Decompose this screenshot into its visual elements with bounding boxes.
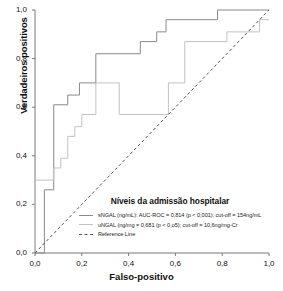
- x-tick-label: 0,2: [69, 259, 95, 268]
- legend-swatch-ungal-icon: [78, 221, 94, 229]
- legend-swatch-reference-line-icon: [78, 230, 94, 238]
- x-tick-label: 0,8: [209, 259, 235, 268]
- legend-label-reference-line: Reference Line: [98, 231, 135, 237]
- chart-legend: Níveis da admissão hospitalar sNGAL (ng/…: [78, 196, 283, 240]
- x-tick-label: 1,0: [256, 259, 282, 268]
- x-axis-label: Falso-positivo: [0, 271, 283, 282]
- y-tick-label: 0,4: [5, 151, 27, 160]
- x-tick-label: 0,6: [162, 259, 188, 268]
- legend-item-ungal: uNGAL (ng/mg = 0,681 (p < 0,o5); cut-off…: [78, 221, 283, 229]
- roc-plot-canvas: [0, 0, 283, 291]
- y-tick-label: 0,6: [5, 102, 27, 111]
- y-tick-label: 1,0: [5, 5, 27, 14]
- legend-item-sngal: sNGAL (ng/mL): AUC-ROC = 0,814 (p < 0,00…: [78, 211, 283, 219]
- y-tick-label: 0,0: [5, 248, 27, 257]
- legend-swatch-sngal-icon: [78, 211, 94, 219]
- legend-item-reference-line: Reference Line: [78, 230, 283, 238]
- y-tick-label: 0,2: [5, 199, 27, 208]
- y-axis-label: Verdadeiros positivos: [18, 0, 29, 141]
- legend-label-ungal: uNGAL (ng/mg = 0,681 (p < 0,o5); cut-off…: [98, 222, 238, 228]
- roc-chart-figure: Verdadeiros positivos Falso-positivo 0,0…: [0, 0, 283, 291]
- y-tick-label: 0,8: [5, 54, 27, 63]
- legend-title: Níveis da admissão hospitalar: [82, 196, 258, 206]
- legend-label-sngal: sNGAL (ng/mL): AUC-ROC = 0,814 (p < 0,00…: [98, 212, 261, 218]
- x-tick-label: 0,4: [116, 259, 142, 268]
- x-tick-label: 0,0: [22, 259, 48, 268]
